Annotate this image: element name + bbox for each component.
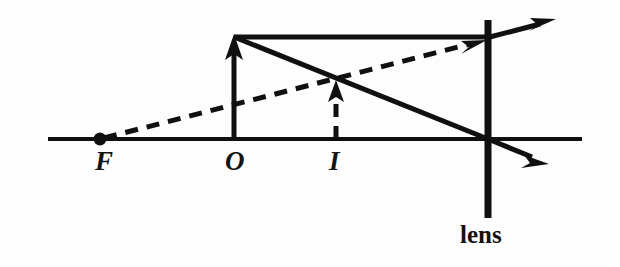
label-image: I bbox=[329, 148, 340, 175]
ray-through-center-incident bbox=[234, 37, 488, 139]
ray-through-center-continued bbox=[488, 139, 532, 157]
image-arrowhead-icon bbox=[328, 80, 344, 102]
ray-diagram-canvas bbox=[0, 0, 620, 267]
ray-through-center-arrowhead-icon bbox=[521, 155, 549, 168]
ray-parallel-refracted bbox=[486, 24, 540, 38]
virtual-ray-arrowhead-icon bbox=[461, 40, 487, 54]
label-object: O bbox=[225, 148, 245, 175]
label-lens: lens bbox=[460, 222, 502, 247]
optics-ray-diagram: F O I lens bbox=[0, 0, 620, 267]
label-focal-point: F bbox=[95, 148, 113, 175]
